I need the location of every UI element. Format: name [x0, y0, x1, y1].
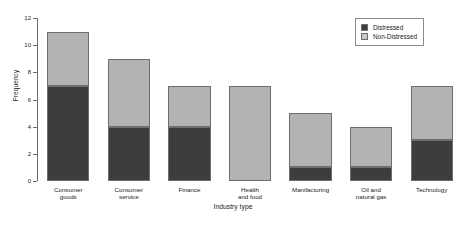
bar-segment-non-distressed — [108, 59, 150, 127]
y-axis-tick — [33, 181, 37, 182]
y-axis-tick — [33, 100, 37, 101]
bar-segment-non-distressed — [47, 32, 89, 86]
x-axis-tick-label: Manifacturing — [280, 186, 341, 193]
x-axis-title: Industry type — [0, 203, 466, 210]
bar-segment-distressed — [47, 86, 89, 181]
x-axis-tick-label-line: service — [99, 193, 160, 200]
x-axis-tick-label: Consumergoods — [38, 186, 99, 201]
y-axis-tick-label: 10 — [17, 42, 31, 48]
bar-group — [168, 86, 210, 181]
legend-item-non-distressed: Non-Distressed — [361, 32, 417, 41]
x-axis-tick-label-line: goods — [38, 193, 99, 200]
x-axis-tick-label: Oil andnatural gas — [341, 186, 402, 201]
x-axis-tick-label: Healthand food — [220, 186, 281, 201]
y-axis-tick-label: 4 — [17, 124, 31, 130]
bar-group — [350, 127, 392, 181]
bar-segment-distressed — [289, 167, 331, 181]
legend-label-distressed: Distressed — [373, 24, 403, 32]
x-axis-tick-label-line: Consumer — [38, 186, 99, 193]
y-axis-tick — [33, 127, 37, 128]
x-axis-tick-label-line: Finance — [159, 186, 220, 193]
bar-segment-distressed — [168, 127, 210, 181]
x-axis-tick-label: Technology — [401, 186, 462, 193]
x-axis-tick-label-line: Oil and — [341, 186, 402, 193]
y-axis-tick-label: 6 — [17, 97, 31, 103]
bar-segment-non-distressed — [289, 113, 331, 167]
bar-segment-distressed — [108, 127, 150, 181]
y-axis-tick-label: 0 — [17, 178, 31, 184]
x-axis-tick-label-line: Health — [220, 186, 281, 193]
bar-group — [289, 113, 331, 181]
bar-segment-non-distressed — [411, 86, 453, 140]
legend-item-distressed: Distressed — [361, 23, 417, 32]
y-axis-tick — [33, 18, 37, 19]
x-axis-tick-label: Consumerservice — [99, 186, 160, 201]
x-axis-tick-label: Finance — [159, 186, 220, 193]
legend-swatch-non-distressed — [361, 33, 368, 40]
bar-group — [229, 86, 271, 181]
x-axis-tick-label-line: Consumer — [99, 186, 160, 193]
bar-segment-non-distressed — [168, 86, 210, 127]
x-axis-tick-label-line: and food — [220, 193, 281, 200]
x-axis-tick-label-line: natural gas — [341, 193, 402, 200]
bar-segment-non-distressed — [229, 86, 271, 181]
x-axis-tick-label-line: Technology — [401, 186, 462, 193]
y-axis-title: Frequency — [9, 0, 23, 170]
y-axis-tick-label: 8 — [17, 69, 31, 75]
y-axis-tick — [33, 154, 37, 155]
y-axis-tick-label: 2 — [17, 151, 31, 157]
y-axis-tick — [33, 45, 37, 46]
bar-segment-non-distressed — [350, 127, 392, 168]
bar-segment-distressed — [411, 140, 453, 181]
y-axis-tick — [33, 72, 37, 73]
legend-label-non-distressed: Non-Distressed — [373, 33, 417, 41]
chart-legend: Distressed Non-Distressed — [355, 18, 424, 46]
x-axis-tick-label-line: Manifacturing — [280, 186, 341, 193]
bar-group — [411, 86, 453, 181]
bar-segment-distressed — [350, 167, 392, 181]
stacked-bar-chart: Frequency 024681012 ConsumergoodsConsume… — [0, 0, 466, 225]
bar-group — [108, 59, 150, 181]
y-axis-tick-label: 12 — [17, 15, 31, 21]
bar-group — [47, 32, 89, 181]
legend-swatch-distressed — [361, 24, 368, 31]
